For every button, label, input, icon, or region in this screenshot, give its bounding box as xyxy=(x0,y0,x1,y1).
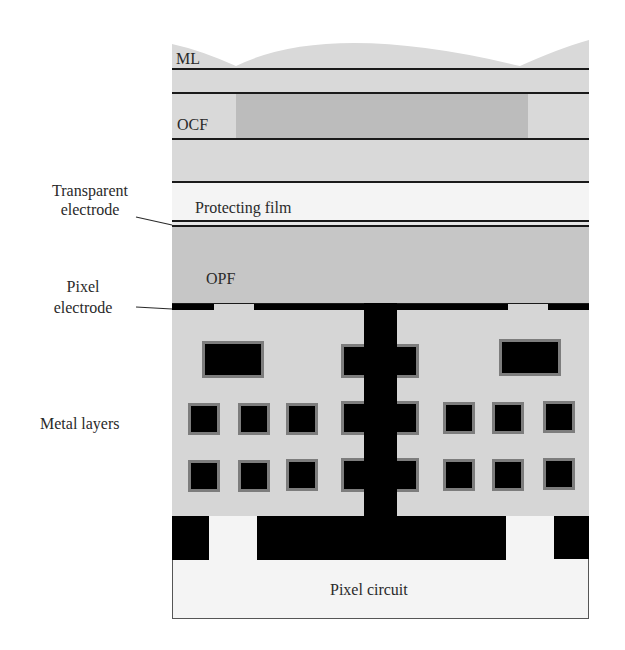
callout-leader-lines xyxy=(0,0,625,650)
